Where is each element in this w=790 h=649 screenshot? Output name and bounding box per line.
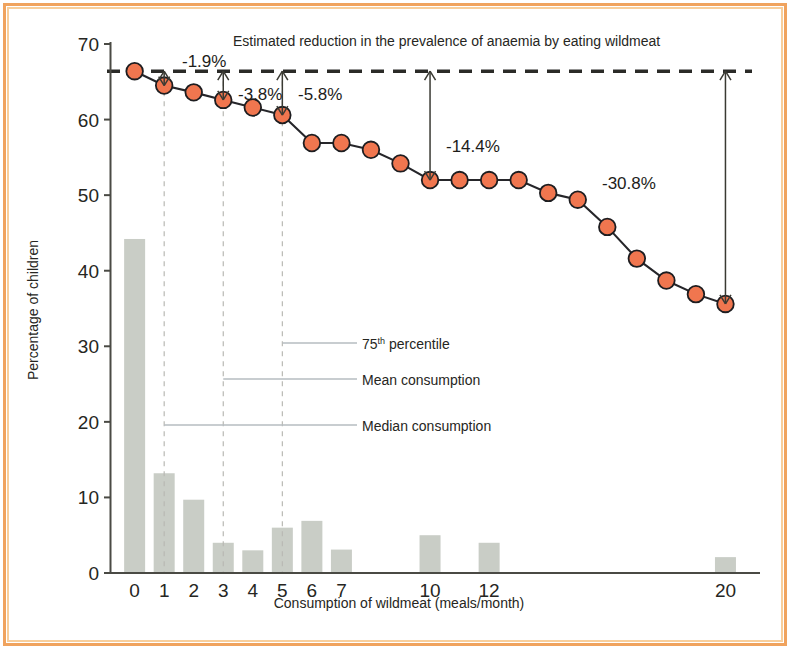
anaemia-wildmeat-chart: 01020304050607001234567101220 Estimated … [0,0,790,649]
y-tick-label: 70 [78,34,99,55]
y-tick-label: 20 [78,412,99,433]
chart-title: Estimated reduction in the prevalence of… [233,33,660,49]
data-point-marker [688,286,705,303]
reduction-label: -3.8% [238,85,282,104]
reduction-label: -14.4% [446,137,500,156]
chart-canvas: 01020304050607001234567101220 Estimated … [0,0,790,649]
reduction-arrow [425,71,436,180]
data-point-marker [599,219,616,236]
axis-lines [111,42,761,573]
data-point-marker [333,135,350,152]
y-axis-title: Percentage of children [25,240,41,380]
chart-legend: 75th percentile Mean consumption Median … [362,336,491,434]
x-axis-title: Consumption of wildmeat (meals/month) [274,595,525,611]
reduction-label: -1.9% [182,52,226,71]
bar [242,550,263,573]
y-tick-label: 50 [78,185,99,206]
bar [479,543,500,573]
x-tick-label: 4 [248,580,259,601]
data-point-marker [363,142,380,159]
bar [420,535,441,573]
data-point-marker [185,84,202,101]
data-point-marker [540,185,557,202]
data-point-marker [451,172,468,189]
axis-ticks: 01020304050607001234567101220 [78,34,736,601]
data-point-marker [658,272,675,289]
figure-page: 01020304050607001234567101220 Estimated … [0,0,790,649]
legend-leader-lines [164,343,357,425]
reduction-arrow [720,71,731,304]
reduction-label: -5.8% [298,85,342,104]
y-tick-label: 30 [78,336,99,357]
reduction-label: -30.8% [602,174,656,193]
axes [111,42,761,573]
y-tick-label: 60 [78,110,99,131]
bar-series [124,239,736,573]
x-tick-label: 3 [218,580,229,601]
x-tick-label: 20 [715,580,736,601]
y-tick-label: 40 [78,261,99,282]
data-point-marker [481,172,498,189]
bar [213,543,234,573]
data-point-marker [629,250,646,267]
legend-75-main: 75 [362,336,378,352]
bar [183,500,204,573]
legend-label-75th-percentile: 75th percentile [362,336,450,352]
bar [301,521,322,573]
data-point-marker [304,135,321,152]
legend-label-median-consumption: Median consumption [362,418,491,434]
x-tick-label: 0 [129,580,140,601]
data-point-marker [510,172,527,189]
bar [715,557,736,573]
legend-75-rest: percentile [385,336,450,352]
data-point-marker [569,191,586,208]
reduction-labels: -1.9%-3.8%-5.8%-14.4%-30.8% [182,52,656,193]
x-tick-label: 2 [188,580,199,601]
data-point-marker [126,63,143,80]
y-tick-label: 10 [78,487,99,508]
y-tick-label: 0 [88,563,99,584]
bar [124,239,145,573]
bar [331,550,352,573]
data-point-marker [392,155,409,172]
legend-75-sup: th [378,336,386,346]
x-tick-label: 1 [159,580,170,601]
vertical-guide-lines [164,71,282,573]
legend-label-mean-consumption: Mean consumption [362,372,480,388]
